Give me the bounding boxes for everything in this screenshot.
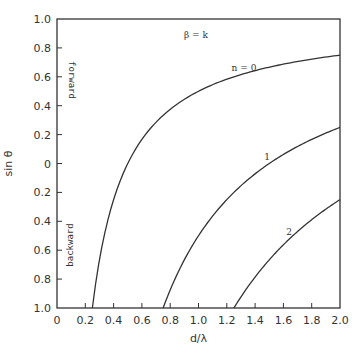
x-tick-label: 0 [54, 314, 61, 327]
y-tick-label: 0.2 [34, 186, 52, 199]
x-tick-label: 1.4 [246, 314, 264, 327]
y-tick-label: 0.6 [34, 71, 52, 84]
y-tick-label: 1.0 [34, 13, 52, 26]
label-beta-k: β = k [184, 30, 208, 40]
label-n0: n = 0 [232, 63, 257, 73]
y-tick-label: 0 [44, 158, 51, 171]
y-tick-label: 0.8 [34, 273, 52, 286]
x-tick-label: 1.6 [275, 314, 293, 327]
y-tick-label: 0.2 [34, 129, 52, 142]
y-axis-title: sin θ [2, 150, 15, 176]
x-tick-label: 0.2 [77, 314, 95, 327]
chart: 00.20.40.60.81.01.21.41.61.82.01.00.80.6… [0, 0, 362, 355]
x-tick-label: 2.0 [331, 314, 349, 327]
label-n1: 1 [264, 152, 270, 162]
plot-frame [57, 19, 340, 308]
plot-curves [92, 55, 340, 308]
x-axis-title: d/λ [190, 332, 208, 345]
x-tick-label: 1.8 [303, 314, 321, 327]
label-backward: backward [65, 223, 75, 266]
x-tick-label: 0.6 [133, 314, 151, 327]
curve-n-0 [92, 55, 340, 308]
y-tick-label: 1.0 [34, 302, 52, 315]
y-tick-label: 0.8 [34, 42, 52, 55]
label-n2: 2 [286, 227, 292, 237]
x-tick-label: 0.4 [105, 314, 123, 327]
plot-axes: 00.20.40.60.81.01.21.41.61.82.01.00.80.6… [34, 13, 349, 327]
y-tick-label: 0.4 [34, 100, 52, 113]
curve-n-2 [234, 200, 340, 308]
x-tick-label: 0.8 [161, 314, 179, 327]
y-tick-label: 0.4 [34, 215, 52, 228]
x-tick-label: 1.0 [190, 314, 208, 327]
label-forward: forward [67, 61, 77, 99]
y-tick-label: 0.6 [34, 244, 52, 257]
x-tick-label: 1.2 [218, 314, 236, 327]
